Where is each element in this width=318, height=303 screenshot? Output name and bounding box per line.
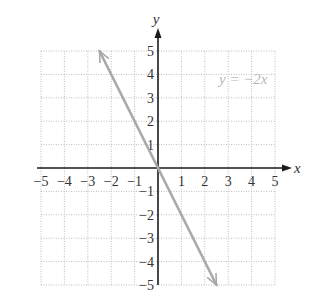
x-axis-label: x xyxy=(293,160,301,176)
y-tick-label: −3 xyxy=(139,231,154,246)
y-tick-label: −5 xyxy=(139,278,154,293)
y-tick-label: 2 xyxy=(147,114,154,129)
y-tick-label: 3 xyxy=(147,91,154,106)
y-tick-label: 4 xyxy=(147,67,154,82)
coordinate-plane: −5−4−3−2−11234554321−1−2−3−4−5 x y y = −… xyxy=(0,0,318,303)
x-tick-label: −5 xyxy=(34,174,49,189)
x-axis-arrow-icon xyxy=(282,165,292,172)
axes xyxy=(37,28,292,285)
y-tick-label: −2 xyxy=(139,208,154,223)
x-tick-label: 4 xyxy=(248,174,255,189)
x-tick-label: 5 xyxy=(272,174,279,189)
x-tick-label: −3 xyxy=(80,174,95,189)
y-tick-label: −4 xyxy=(139,255,154,270)
x-tick-label: 1 xyxy=(178,174,185,189)
y-axis-arrow-icon xyxy=(155,28,162,38)
equation-label: y = −2x xyxy=(217,71,268,87)
x-tick-label: −4 xyxy=(57,174,72,189)
y-tick-label: 5 xyxy=(147,44,154,59)
y-tick-label: −1 xyxy=(139,184,154,199)
x-tick-label: −2 xyxy=(104,174,119,189)
y-axis-label: y xyxy=(151,11,160,27)
x-tick-label: 2 xyxy=(201,174,208,189)
x-tick-label: 3 xyxy=(225,174,232,189)
